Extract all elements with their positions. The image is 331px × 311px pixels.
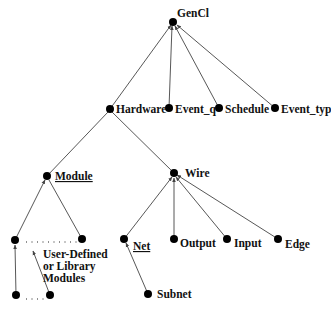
node-wire	[170, 169, 178, 177]
edge-net-wire	[124, 177, 172, 239]
node-schedule	[215, 104, 223, 112]
edge-modright-module	[49, 180, 82, 239]
node-hardware	[106, 105, 114, 113]
label-event_typ: Event_typ	[281, 103, 331, 116]
node-module-bottom-left	[12, 291, 20, 299]
edge-hardware-gencl	[110, 25, 171, 109]
label-wire: Wire	[185, 167, 210, 179]
label-module: Module	[55, 170, 93, 182]
edge-event_q-gencl	[169, 26, 172, 108]
node-input	[223, 235, 231, 243]
label-output: Output	[180, 237, 216, 250]
label-input: Input	[234, 237, 262, 250]
class-hierarchy-diagram: GenCl Hardware Event_q Schedule Event_ty…	[0, 0, 331, 311]
edge-modleft-module	[15, 180, 45, 240]
node-module-left	[11, 236, 19, 244]
annotation-line-3: Modules	[43, 272, 86, 284]
edge-input-wire	[176, 177, 227, 239]
node-edge	[274, 235, 282, 243]
edge-modbottomleft-modleft	[15, 245, 16, 295]
node-module-bottom-right	[46, 291, 54, 299]
annotation-line-1: User-Defined	[43, 248, 108, 260]
node-module	[43, 172, 51, 180]
edge-edge-wire	[177, 175, 278, 239]
label-schedule: Schedule	[225, 103, 269, 115]
label-gencl: GenCl	[177, 7, 209, 19]
edge-event_typ-gencl	[177, 25, 275, 108]
label-hardware: Hardware	[116, 103, 166, 115]
label-event_q: Event_q	[175, 103, 217, 116]
node-gencl	[169, 18, 177, 26]
node-subnet	[144, 290, 152, 298]
node-net	[120, 235, 128, 243]
node-event_typ	[271, 104, 279, 112]
label-edge: Edge	[285, 238, 310, 251]
edges-to-gencl	[110, 25, 275, 109]
edge-module-hardware	[47, 112, 108, 176]
label-subnet: Subnet	[157, 288, 192, 300]
node-output	[170, 235, 178, 243]
edge-schedule-gencl	[175, 26, 219, 108]
label-net: Net	[133, 240, 150, 252]
edge-wire-hardware	[112, 112, 174, 173]
node-module-right	[78, 235, 86, 243]
